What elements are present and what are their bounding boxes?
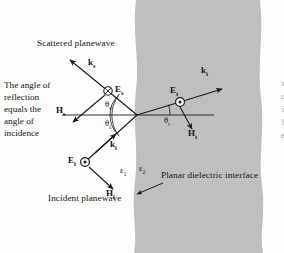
e-s-sub: s <box>121 89 124 96</box>
h-i-label: Hi <box>106 188 115 200</box>
page-edge-fragment-5: e <box>281 131 284 140</box>
k-s-sub: s <box>93 62 96 69</box>
page-edge-fragment-3: i <box>282 105 284 114</box>
k-i-label: ki <box>110 139 117 151</box>
k-i-sub: i <box>115 144 117 151</box>
h-t-label: Ht <box>188 128 197 140</box>
h-i-sub: i <box>113 193 115 200</box>
theta-s-label: θs <box>105 99 111 112</box>
angle-note-line-1: The angle of <box>4 80 76 92</box>
epsilon-1-label: ε1 <box>120 166 126 178</box>
scattered-electric-field-marker <box>104 87 112 95</box>
scattered-ray <box>70 60 137 115</box>
angle-note-line-4: angle of <box>4 116 76 128</box>
transmitted-electric-field-marker <box>176 98 185 107</box>
incident-electric-field-marker <box>81 158 90 167</box>
planewave-reflection-figure: Scattered planewave Incident planewave P… <box>0 0 284 253</box>
k-t-label: kt <box>201 65 208 77</box>
incident-h-arrow <box>89 167 113 189</box>
epsilon-2-label: ε2 <box>139 164 145 176</box>
h-i-base: H <box>106 188 113 198</box>
scattered-planewave-label: Scattered planewave <box>37 38 115 49</box>
page-edge-fragment-4: l <box>282 118 284 127</box>
angle-note-line-2: reflection <box>4 92 76 104</box>
epsilon-2-sub: 2 <box>142 169 145 175</box>
theta-i-label: θi <box>105 118 111 131</box>
k-t-sub: t <box>206 70 208 77</box>
angle-note-line-5: incidence <box>4 128 76 140</box>
h-s-sub: s <box>63 110 66 117</box>
epsilon-1-sub: 1 <box>123 171 126 177</box>
scattered-h-arrow <box>73 95 105 122</box>
theta-t-sub: t <box>168 121 170 127</box>
theta-i-sub: i <box>109 124 111 130</box>
e-i-label: Ei <box>68 155 76 167</box>
e-s-label: Es <box>115 84 124 96</box>
planar-dielectric-interface-label: Planar dielectric interface <box>161 170 258 181</box>
theta-s-sub: s <box>109 105 111 111</box>
h-t-sub: t <box>195 133 197 140</box>
theta-t-label: θt <box>164 115 170 128</box>
e-i-sub: i <box>74 160 76 167</box>
page-edge-fragment-1: t <box>282 79 284 88</box>
dielectric-medium-region <box>134 0 264 253</box>
h-s-label: Hs <box>56 105 66 117</box>
e-t-sub: t <box>176 90 178 97</box>
k-s-label: ks <box>88 57 96 69</box>
e-t-label: Et <box>170 85 178 97</box>
h-t-base: H <box>188 128 195 138</box>
h-s-base: H <box>56 105 63 115</box>
page-edge-fragment-2: c <box>281 92 284 101</box>
